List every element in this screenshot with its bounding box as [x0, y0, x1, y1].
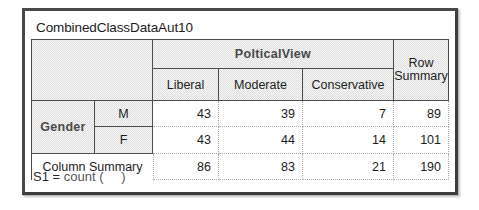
- formula-bar[interactable]: S1 = count ( ): [33, 167, 283, 187]
- table-window: CombinedClassDataAut10 PolticalView Row …: [22, 8, 458, 195]
- cell-f-liberal: 43: [153, 127, 219, 154]
- row-label-m: M: [95, 101, 153, 127]
- cell-grand-total: 190: [394, 154, 449, 180]
- column-header-liberal: Liberal: [153, 69, 219, 101]
- column-header-moderate: Moderate: [219, 69, 303, 101]
- cell-f-moderate: 44: [219, 127, 303, 154]
- row-group-header-gender: Gender: [31, 101, 95, 154]
- header-corner-blank: [31, 39, 153, 101]
- cell-m-moderate: 39: [219, 101, 303, 127]
- formula-equals: =: [53, 169, 61, 184]
- row-summary-header: Row Summary: [394, 39, 449, 101]
- formula-name: S1: [33, 169, 49, 184]
- cell-f-row-summary: 101: [394, 127, 449, 154]
- contingency-table: CombinedClassDataAut10 PolticalView Row …: [31, 17, 449, 189]
- cell-m-conservative: 7: [303, 101, 394, 127]
- column-header-conservative: Conservative: [303, 69, 394, 101]
- row-summary-header-line2: Summary: [394, 70, 447, 83]
- page-title: CombinedClassDataAut10: [31, 17, 449, 39]
- cell-m-row-summary: 89: [394, 101, 449, 127]
- cell-m-liberal: 43: [153, 101, 219, 127]
- column-group-header: PolticalView: [153, 39, 394, 69]
- formula-function: count (: [64, 169, 104, 184]
- row-label-f: F: [95, 127, 153, 154]
- cell-f-conservative: 14: [303, 127, 394, 154]
- cell-summary-conservative: 21: [303, 154, 394, 180]
- formula-close-paren: ): [107, 169, 125, 184]
